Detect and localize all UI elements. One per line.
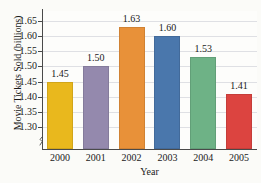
x-axis-tick-label: 2004 [183,153,223,163]
x-axis-tick-label: 2000 [40,153,80,163]
bar-value-label: 1.60 [159,23,177,33]
y-axis-tick-label: 1.65 [20,16,38,26]
bar-chart: Movie Tickets Sold (billions) 1.301.351.… [0,0,261,183]
x-axis-tick-label: 2005 [219,153,259,163]
x-axis-tick-labels: 200020012002200320042005 [42,153,257,167]
plot-area: 1.301.351.401.451.501.551.601.65 1.451.5… [42,11,257,150]
bar-value-label: 1.45 [51,69,69,79]
y-axis-tick-label: 1.50 [20,61,38,71]
bar-2002 [119,27,145,149]
bar-2005 [226,94,252,149]
y-axis-tick-label: 1.30 [20,122,38,132]
y-axis-tick-label: 1.45 [20,77,38,87]
bar-value-label: 1.53 [195,44,213,54]
bars-layer: 1.451.501.631.601.531.41 [42,11,257,150]
bar-2001 [83,66,109,149]
bar-value-label: 1.41 [230,81,248,91]
bar-2000 [47,82,73,149]
x-axis-tick-label: 2003 [147,153,187,163]
y-axis-tick-label: 1.40 [20,92,38,102]
x-axis-tick-label: 2002 [112,153,152,163]
x-axis-tick-label: 2001 [76,153,116,163]
bar-2003 [154,36,180,149]
y-axis-tick-label: 1.55 [20,46,38,56]
y-axis-tick-label: 1.35 [20,107,38,117]
x-axis-title: Year [42,167,257,177]
y-axis-tick-label: 1.60 [20,31,38,41]
bar-value-label: 1.50 [87,53,105,63]
bar-2004 [190,57,216,149]
bar-value-label: 1.63 [123,14,141,24]
